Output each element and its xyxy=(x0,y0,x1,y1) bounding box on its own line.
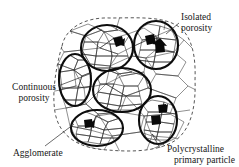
label-isolated-porosity-line2: porosity xyxy=(181,23,212,34)
label-continuous-porosity: Continuous porosity xyxy=(2,82,66,103)
label-isolated-porosity-line1: Isolated xyxy=(181,12,211,22)
primary-particle-top-left xyxy=(78,24,134,74)
figure-container: Isolated porosity Continuous porosity Ag… xyxy=(0,0,239,167)
label-continuous-porosity-line2: porosity xyxy=(2,93,66,104)
label-agglomerate: Agglomerate xyxy=(13,148,63,159)
label-polycrystalline-line1: Polycrystalline xyxy=(167,144,224,154)
label-isolated-porosity: Isolated porosity xyxy=(181,12,212,33)
grain-mesh-background xyxy=(50,16,196,158)
label-polycrystalline-primary-particle: Polycrystalline primary particle xyxy=(167,144,235,165)
label-agglomerate-line1: Agglomerate xyxy=(13,148,63,158)
label-polycrystalline-line2: primary particle xyxy=(167,155,235,166)
label-continuous-porosity-line1: Continuous xyxy=(12,82,56,92)
